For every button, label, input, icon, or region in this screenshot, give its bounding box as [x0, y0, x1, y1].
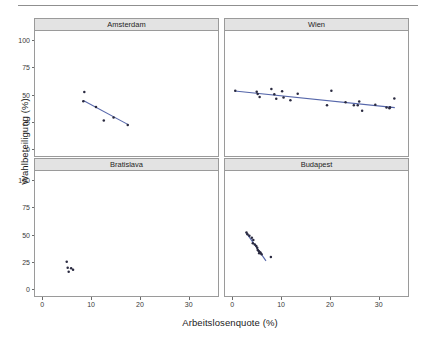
- data-point: [374, 104, 377, 107]
- data-point: [72, 268, 75, 271]
- y-tick-mark: [32, 149, 35, 150]
- y-tick-label: 0: [4, 286, 30, 293]
- y-tick-mark: [32, 207, 35, 208]
- data-point: [251, 237, 254, 240]
- y-tick-mark: [32, 180, 35, 181]
- data-point: [356, 104, 359, 107]
- facet-panel-budapest: Budapest: [224, 158, 409, 297]
- data-point: [67, 270, 70, 273]
- regression-line: [83, 101, 128, 125]
- facet-strip-label-bratislava: Bratislava: [34, 158, 219, 171]
- x-tick-mark: [232, 297, 233, 300]
- x-tick-label: 20: [128, 301, 152, 308]
- data-point: [112, 116, 115, 119]
- y-tick-mark: [32, 235, 35, 236]
- data-point: [326, 104, 329, 107]
- data-point: [126, 124, 129, 127]
- x-tick-label: 30: [367, 301, 391, 308]
- data-point: [330, 90, 333, 93]
- x-tick-label: 10: [269, 301, 293, 308]
- y-tick-mark: [32, 40, 35, 41]
- scatter-canvas-wien: [225, 31, 408, 156]
- data-point: [256, 93, 259, 96]
- y-tick-mark: [32, 289, 35, 290]
- scatter-canvas-amsterdam: [35, 31, 218, 156]
- data-point: [82, 100, 85, 103]
- x-tick-label: 0: [30, 301, 54, 308]
- data-point: [66, 266, 69, 269]
- x-tick-label: 20: [318, 301, 342, 308]
- plot-area-amsterdam: [34, 31, 219, 157]
- x-tick-mark: [42, 297, 43, 300]
- scatter-canvas-budapest: [225, 171, 408, 296]
- data-point: [248, 234, 251, 237]
- data-point: [358, 100, 361, 103]
- figure-root: Wahlbeteiligung (%) Arbeitslosenquote (%…: [0, 0, 431, 340]
- y-tick-mark: [32, 262, 35, 263]
- data-point: [361, 109, 364, 112]
- data-point: [296, 93, 299, 96]
- data-point: [353, 104, 356, 107]
- y-tick-label: 25: [4, 119, 30, 126]
- data-point: [255, 90, 258, 93]
- data-point: [389, 106, 392, 109]
- x-axis-title: Arbeitslosenquote (%): [40, 317, 420, 328]
- data-point: [95, 106, 98, 109]
- data-point: [344, 101, 347, 104]
- y-tick-mark: [32, 122, 35, 123]
- y-tick-mark: [32, 67, 35, 68]
- x-tick-label: 30: [177, 301, 201, 308]
- data-point: [289, 99, 292, 102]
- data-point: [281, 90, 284, 93]
- facet-panel-bratislava: Bratislava: [34, 158, 219, 297]
- facet-panel-wien: Wien: [224, 18, 409, 157]
- x-tick-mark: [189, 297, 190, 300]
- data-point: [234, 90, 237, 93]
- x-tick-mark: [379, 297, 380, 300]
- x-tick-mark: [91, 297, 92, 300]
- y-tick-label: 50: [4, 231, 30, 238]
- data-point: [260, 253, 263, 256]
- x-tick-mark: [281, 297, 282, 300]
- x-tick-mark: [140, 297, 141, 300]
- data-point: [273, 93, 276, 96]
- y-tick-label: 50: [4, 91, 30, 98]
- facet-panel-amsterdam: Amsterdam: [34, 18, 219, 157]
- y-tick-label: 75: [4, 204, 30, 211]
- x-tick-mark: [330, 297, 331, 300]
- facet-strip-label-amsterdam: Amsterdam: [34, 18, 219, 31]
- data-point: [385, 106, 388, 109]
- data-point: [270, 256, 273, 259]
- scatter-canvas-bratislava: [35, 171, 218, 296]
- data-point: [393, 97, 396, 100]
- data-point: [275, 97, 278, 100]
- data-point: [83, 91, 86, 94]
- y-tick-label: 100: [4, 36, 30, 43]
- data-point: [258, 96, 261, 99]
- plot-area-bratislava: [34, 171, 219, 297]
- y-tick-mark: [32, 95, 35, 96]
- data-point: [270, 88, 273, 91]
- facet-strip-label-wien: Wien: [224, 18, 409, 31]
- x-tick-label: 10: [79, 301, 103, 308]
- plot-area-wien: [224, 31, 409, 157]
- x-tick-label: 0: [220, 301, 244, 308]
- top-horizontal-rule: [18, 5, 418, 6]
- data-point: [252, 239, 255, 242]
- data-point: [70, 267, 73, 270]
- facet-strip-label-budapest: Budapest: [224, 158, 409, 171]
- data-point: [65, 261, 68, 264]
- data-point: [282, 96, 285, 99]
- y-tick-label: 75: [4, 64, 30, 71]
- y-tick-label: 25: [4, 259, 30, 266]
- y-tick-label: 100: [4, 176, 30, 183]
- data-point: [103, 119, 106, 122]
- y-tick-label: 0: [4, 146, 30, 153]
- plot-area-budapest: [224, 171, 409, 297]
- data-point: [256, 247, 259, 250]
